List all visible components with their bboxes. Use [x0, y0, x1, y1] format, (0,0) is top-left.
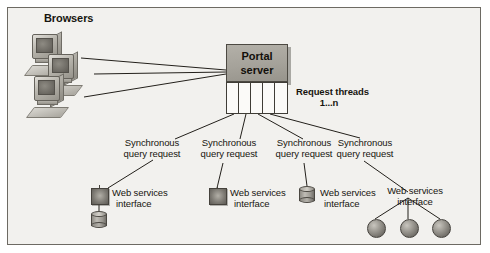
wire-thread-2 [240, 114, 246, 139]
database-cylinder-icon-3 [299, 186, 315, 203]
wire-browser-1-to-portal [81, 58, 226, 70]
request-threads-label-line2: 1...n [296, 98, 362, 109]
wire-thread-1 [175, 114, 234, 139]
database-cylinder-icon-1 [91, 211, 107, 228]
request-label-4-line2: query request [328, 149, 402, 160]
wire-request-3-to-service-3 [304, 163, 307, 186]
request-threads-box [226, 82, 288, 114]
portal-server-box: Portal server [226, 44, 288, 82]
browser-3-icon [30, 74, 76, 118]
request-label-2-line2: query request [192, 149, 266, 160]
portal-server-label-line1: Portal [227, 50, 287, 62]
architecture-diagram: Browsers Portal server Request threads 1… [7, 7, 481, 245]
cylinder-top [91, 211, 107, 217]
screen [52, 58, 69, 73]
keyboard [26, 107, 70, 118]
service-label-4-line2: interface [378, 197, 452, 208]
resource-node-1-icon [367, 219, 386, 238]
wire-thread-4 [270, 114, 360, 138]
thread-divider-2 [250, 83, 251, 113]
cylinder-top [299, 186, 315, 192]
web-service-square-icon-1 [91, 188, 109, 205]
portal-server-label-line2: server [227, 64, 287, 76]
thread-divider-1 [238, 83, 239, 113]
service-label-3-line2: interface [324, 199, 360, 210]
resource-node-3-icon [432, 219, 451, 238]
monitor [34, 76, 60, 101]
wire-browser-2-to-portal [94, 72, 226, 74]
cylinder-bottom [91, 222, 107, 228]
request-label-1-line2: query request [115, 149, 189, 160]
service-label-1-line2: interface [116, 199, 152, 210]
resource-node-2-icon [400, 219, 419, 238]
wire-browser-3-to-portal [84, 74, 226, 97]
screen [36, 38, 53, 53]
service-label-2-line2: interface [234, 199, 270, 210]
thread-divider-3 [262, 83, 263, 113]
browsers-label: Browsers [44, 12, 93, 24]
screen [38, 80, 55, 95]
cylinder-bottom [299, 197, 315, 203]
wire-thread-3 [258, 114, 303, 139]
thread-divider-4 [274, 83, 275, 113]
wire-request-1-to-service-1 [108, 160, 153, 188]
web-service-square-icon-2 [209, 188, 227, 205]
